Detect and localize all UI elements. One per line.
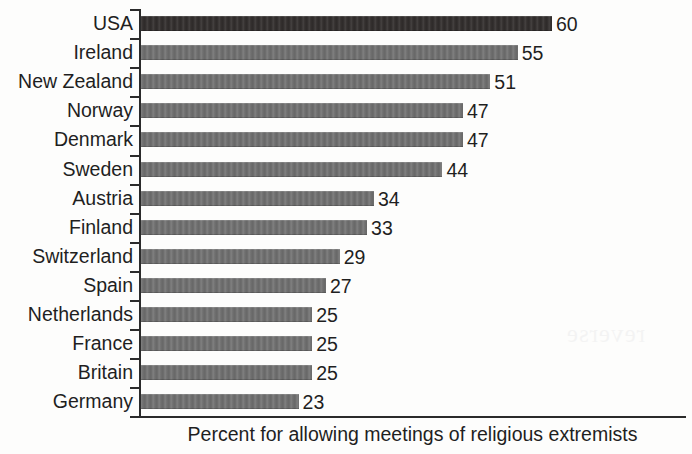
bar-value-label: 29 — [344, 242, 366, 271]
bar-row: Switzerland29 — [0, 242, 692, 271]
category-label: Netherlands — [28, 300, 133, 329]
bar — [141, 307, 312, 322]
bar-value-label: 47 — [467, 125, 489, 154]
category-label: Finland — [69, 213, 133, 242]
y-axis-tick — [130, 213, 140, 215]
y-axis-tick — [130, 9, 140, 11]
y-axis-tick — [130, 271, 140, 273]
bar-value-label: 47 — [467, 96, 489, 125]
bar-row: Denmark47 — [0, 125, 692, 154]
bar — [141, 16, 552, 31]
y-axis-tick — [130, 38, 140, 40]
category-label: Sweden — [63, 155, 133, 184]
y-axis-tick — [130, 300, 140, 302]
y-axis-tick — [130, 155, 140, 157]
bar-value-label: 25 — [316, 300, 338, 329]
x-axis-caption: Percent for allowing meetings of religio… — [139, 423, 686, 446]
bar-row: Germany23 — [0, 387, 692, 416]
category-label: Britain — [78, 358, 133, 387]
bar-row: Ireland55 — [0, 38, 692, 67]
bar-value-label: 27 — [330, 271, 352, 300]
y-axis-tick — [130, 96, 140, 98]
bar — [141, 191, 374, 206]
bar-row: Britain25 — [0, 358, 692, 387]
category-label: Denmark — [54, 125, 133, 154]
category-label: USA — [93, 9, 133, 38]
category-label: Switzerland — [32, 242, 133, 271]
category-label: Ireland — [73, 38, 133, 67]
bar-value-label: 25 — [316, 358, 338, 387]
bar — [141, 394, 299, 409]
bar-chart: USA60Ireland55New Zealand51Norway47Denma… — [0, 0, 692, 454]
y-axis-tick — [130, 329, 140, 331]
bar-value-label: 33 — [371, 213, 393, 242]
bar — [141, 220, 367, 235]
bar-row: Spain27 — [0, 271, 692, 300]
bar — [141, 249, 340, 264]
bar-value-label: 44 — [446, 155, 468, 184]
y-axis-tick — [130, 416, 140, 418]
category-label: Austria — [72, 184, 133, 213]
bar-row: Netherlands25 — [0, 300, 692, 329]
bar-value-label: 51 — [494, 67, 516, 96]
bar-row: New Zealand51 — [0, 67, 692, 96]
bar — [141, 278, 326, 293]
bar-row: Sweden44 — [0, 155, 692, 184]
category-label: New Zealand — [18, 67, 133, 96]
y-axis-tick — [130, 358, 140, 360]
bar-row: USA60 — [0, 9, 692, 38]
y-axis-tick — [130, 67, 140, 69]
bar-row: Finland33 — [0, 213, 692, 242]
category-label: France — [72, 329, 133, 358]
bar-value-label: 55 — [522, 38, 544, 67]
category-label: Spain — [83, 271, 133, 300]
bar-value-label: 23 — [303, 387, 325, 416]
bar-row: France25 — [0, 329, 692, 358]
category-label: Norway — [67, 96, 133, 125]
bar-value-label: 25 — [316, 329, 338, 358]
bar-value-label: 60 — [556, 9, 578, 38]
bar — [141, 132, 463, 147]
y-axis-tick — [130, 125, 140, 127]
bar — [141, 162, 442, 177]
category-label: Germany — [53, 387, 133, 416]
bar-value-label: 34 — [378, 184, 400, 213]
bar — [141, 74, 490, 89]
x-axis-line — [139, 416, 686, 418]
y-axis-tick — [130, 242, 140, 244]
y-axis-tick — [130, 387, 140, 389]
bar — [141, 45, 518, 60]
y-axis-tick — [130, 184, 140, 186]
bar — [141, 336, 312, 351]
bar — [141, 365, 312, 380]
bar-row: Norway47 — [0, 96, 692, 125]
bar-row: Austria34 — [0, 184, 692, 213]
bar — [141, 103, 463, 118]
